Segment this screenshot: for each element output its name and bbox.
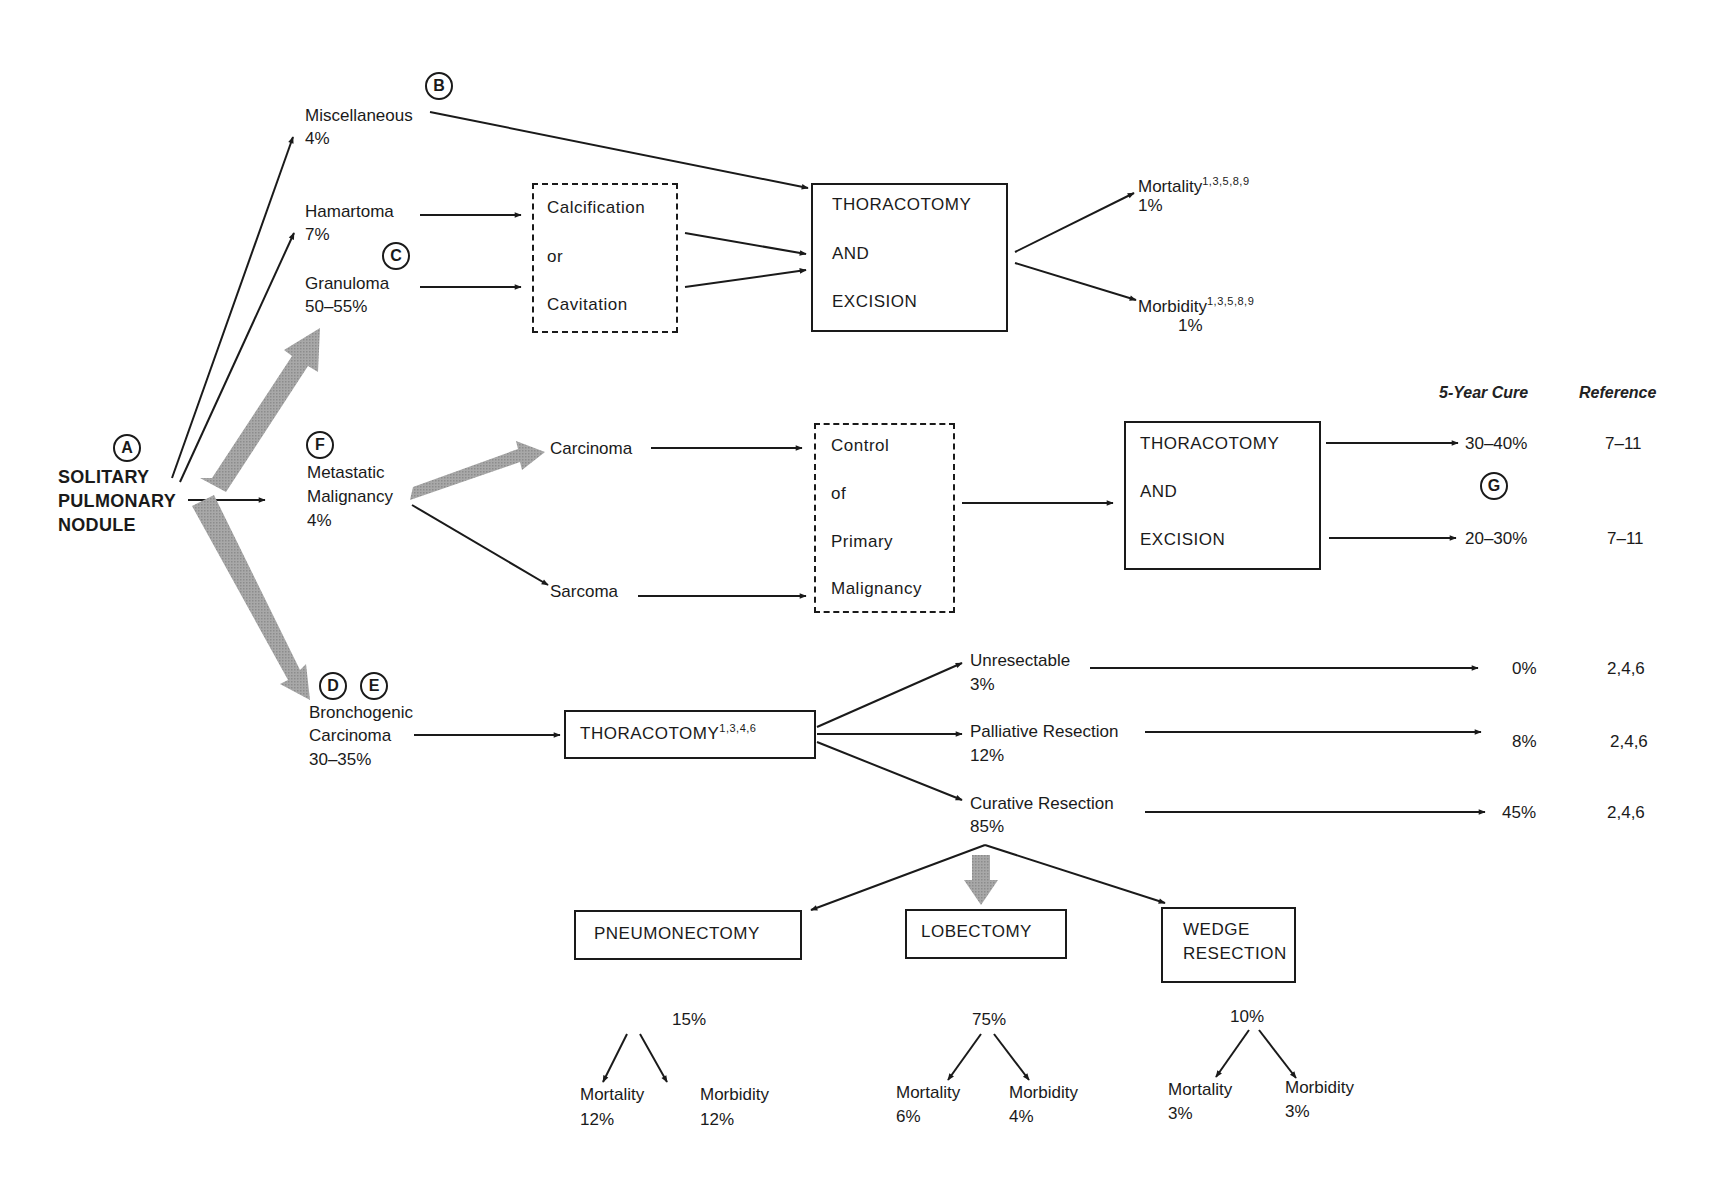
marker-g: G xyxy=(1480,472,1508,500)
benign-mortality-pct: 1% xyxy=(1138,194,1163,217)
lobectomy-morbidity-pct: 4% xyxy=(1009,1105,1034,1128)
bronchogenic-label-line1: Bronchogenic xyxy=(309,701,413,724)
palliative-pct: 12% xyxy=(970,744,1004,767)
bronchogenic-pct: 30–35% xyxy=(309,748,371,771)
root-label-line1: SOLITARY xyxy=(58,465,149,489)
unresectable-label: Unresectable xyxy=(970,649,1070,672)
column-header-reference: Reference xyxy=(1579,381,1656,404)
column-header-5-year-cure: 5-Year Cure xyxy=(1439,381,1528,404)
wedge-mortality-label: Mortality xyxy=(1168,1078,1232,1101)
resection-text: RESECTION xyxy=(1183,944,1287,964)
metastatic-label-line2: Malignancy xyxy=(307,485,393,508)
marker-e: E xyxy=(360,672,388,700)
granuloma-pct: 50–55% xyxy=(305,295,367,318)
arrow-to-unresectable xyxy=(817,663,962,727)
hamartoma-label: Hamartoma xyxy=(305,200,394,223)
thoracotomy-refs: 1,3,4,6 xyxy=(719,722,756,734)
pneumonectomy-morbidity-pct: 12% xyxy=(700,1108,734,1131)
arrow-to-curative xyxy=(817,742,962,800)
wedge-morbidity-label: Morbidity xyxy=(1285,1076,1354,1099)
lobectomy-mortality-pct: 6% xyxy=(896,1105,921,1128)
arrow-lobectomy-mortality xyxy=(948,1034,981,1080)
hamartoma-pct: 7% xyxy=(305,223,330,246)
malignancy-text: Malignancy xyxy=(831,579,922,599)
sarcoma-label: Sarcoma xyxy=(550,580,618,603)
cure-curative: 45% xyxy=(1502,801,1536,824)
pneumonectomy-mortality-label: Mortality xyxy=(580,1083,644,1106)
pneumonectomy-pct: 15% xyxy=(672,1008,706,1031)
pneumonectomy-mortality-pct: 12% xyxy=(580,1108,614,1131)
curative-pct: 85% xyxy=(970,815,1004,838)
ref-palliative: 2,4,6 xyxy=(1610,730,1648,753)
pneumonectomy-morbidity-label: Morbidity xyxy=(700,1083,769,1106)
excision-text-2: EXCISION xyxy=(1140,530,1225,550)
miscellaneous-label: Miscellaneous xyxy=(305,104,413,127)
metastatic-pct: 4% xyxy=(307,509,332,532)
arrow-misc-to-thoracotomy xyxy=(430,112,808,188)
pneumonectomy-text: PNEUMONECTOMY xyxy=(594,924,760,944)
unresectable-pct: 3% xyxy=(970,673,995,696)
granuloma-label: Granuloma xyxy=(305,272,389,295)
marker-d: D xyxy=(319,672,347,700)
carcinoma-label: Carcinoma xyxy=(550,437,632,460)
curative-label: Curative Resection xyxy=(970,792,1114,815)
thoracotomy-text-2: THORACOTOMY xyxy=(1140,434,1279,454)
ref-curative: 2,4,6 xyxy=(1607,801,1645,824)
cure-unresectable: 0% xyxy=(1512,657,1537,680)
wedge-mortality-pct: 3% xyxy=(1168,1102,1193,1125)
cavitation-text: Cavitation xyxy=(547,295,628,315)
thoracotomy-label: THORACOTOMY xyxy=(580,724,719,743)
thick-arrow-root-to-granuloma xyxy=(200,328,320,492)
calcification-text: Calcification xyxy=(547,198,645,218)
morbidity-refs: 1,3,5,8,9 xyxy=(1207,295,1254,307)
miscellaneous-pct: 4% xyxy=(305,127,330,150)
primary-text: Primary xyxy=(831,532,893,552)
cure-palliative: 8% xyxy=(1512,730,1537,753)
arrow-curative-to-pneumonectomy xyxy=(811,845,985,910)
arrow-wedge-morbidity xyxy=(1259,1030,1296,1078)
arrow-root-to-miscellaneous xyxy=(172,137,293,478)
arrow-wedge-mortality xyxy=(1216,1030,1249,1077)
wedge-morbidity-pct: 3% xyxy=(1285,1100,1310,1123)
thick-arrow-metastatic-to-carcinoma xyxy=(410,441,545,500)
lobectomy-text: LOBECTOMY xyxy=(921,922,1032,942)
root-label-line2: PULMONARY xyxy=(58,489,176,513)
arrow-metastatic-to-sarcoma xyxy=(412,505,548,585)
arrow-to-mortality xyxy=(1015,193,1134,252)
flowchart-canvas: A SOLITARY PULMONARY NODULE B Miscellane… xyxy=(0,0,1729,1195)
wedge-pct: 10% xyxy=(1230,1005,1264,1028)
marker-b: B xyxy=(425,72,453,100)
mortality-refs: 1,3,5,8,9 xyxy=(1202,175,1249,187)
lobectomy-mortality-label: Mortality xyxy=(896,1081,960,1104)
ref-7-11-a: 7–11 xyxy=(1605,432,1642,455)
thick-arrow-curative-to-lobectomy xyxy=(964,855,998,905)
control-text: Control xyxy=(831,436,889,456)
arrow-lobectomy-morbidity xyxy=(994,1034,1029,1080)
and-text-1: AND xyxy=(832,244,869,264)
arrow-calcification-to-thoracotomy-1 xyxy=(685,233,806,254)
or-text: or xyxy=(547,247,563,267)
arrow-pneumonectomy-morbidity xyxy=(640,1034,667,1082)
arrow-to-morbidity xyxy=(1015,263,1136,300)
wedge-text: WEDGE xyxy=(1183,920,1250,940)
of-text: of xyxy=(831,484,846,504)
lobectomy-pct: 75% xyxy=(972,1008,1006,1031)
marker-f: F xyxy=(306,431,334,459)
excision-text-1: EXCISION xyxy=(832,292,917,312)
palliative-label: Palliative Resection xyxy=(970,720,1118,743)
cure-20-30: 20–30% xyxy=(1465,527,1527,550)
marker-a: A xyxy=(113,434,141,462)
cure-30-40: 30–40% xyxy=(1465,432,1527,455)
thick-arrow-root-to-bronchogenic xyxy=(192,495,310,700)
root-label-line3: NODULE xyxy=(58,513,136,537)
metastatic-label-line1: Metastatic xyxy=(307,461,384,484)
arrow-calcification-to-thoracotomy-2 xyxy=(685,270,806,287)
thoracotomy-text-1: THORACOTOMY xyxy=(832,195,971,215)
benign-morbidity-pct: 1% xyxy=(1178,314,1203,337)
ref-unresectable: 2,4,6 xyxy=(1607,657,1645,680)
bronchogenic-label-line2: Carcinoma xyxy=(309,724,391,747)
lobectomy-morbidity-label: Morbidity xyxy=(1009,1081,1078,1104)
arrow-pneumonectomy-mortality xyxy=(603,1034,627,1082)
arrow-curative-to-wedge xyxy=(985,845,1165,903)
thoracotomy-text-3: THORACOTOMY1,3,4,6 xyxy=(580,722,756,744)
